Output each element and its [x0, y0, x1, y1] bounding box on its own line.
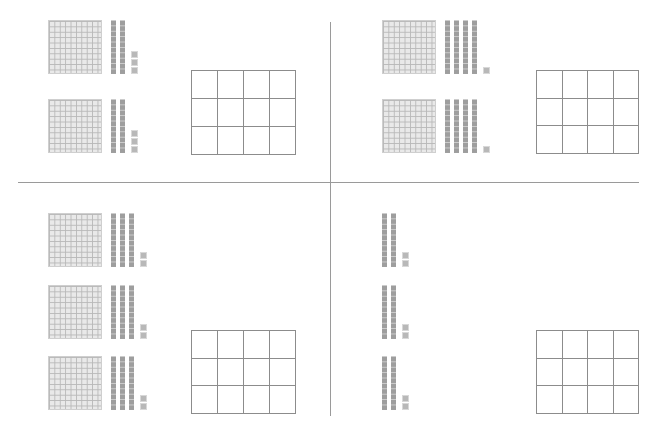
ten-rod-block	[111, 213, 116, 267]
one-unit-block	[131, 67, 138, 74]
base-ten-group	[382, 20, 490, 74]
answer-cell[interactable]	[614, 359, 640, 387]
answer-cell[interactable]	[192, 331, 218, 359]
base-ten-group	[382, 285, 409, 339]
answer-cell[interactable]	[244, 99, 270, 127]
one-unit-block	[140, 403, 147, 410]
tens-rods	[445, 20, 481, 74]
answer-cell[interactable]	[218, 71, 244, 99]
answer-cell[interactable]	[563, 99, 589, 127]
answer-cell[interactable]	[537, 359, 563, 387]
answer-cell[interactable]	[563, 331, 589, 359]
ten-rod-block	[129, 285, 134, 339]
answer-grid	[191, 330, 296, 414]
horizontal-divider	[18, 182, 639, 183]
ten-rod-block	[382, 213, 387, 267]
ones-units	[131, 129, 138, 153]
ten-rod-block	[472, 99, 477, 153]
answer-cell[interactable]	[218, 359, 244, 387]
answer-cell[interactable]	[244, 127, 270, 155]
base-ten-group	[382, 99, 490, 153]
answer-cell[interactable]	[218, 331, 244, 359]
answer-cell[interactable]	[537, 99, 563, 127]
answer-cell[interactable]	[588, 331, 614, 359]
answer-cell[interactable]	[588, 359, 614, 387]
answer-cell[interactable]	[537, 331, 563, 359]
answer-cell[interactable]	[537, 71, 563, 99]
ten-rod-block	[391, 285, 396, 339]
one-unit-block	[402, 324, 409, 331]
answer-cell[interactable]	[270, 331, 296, 359]
answer-cell[interactable]	[614, 71, 640, 99]
answer-cell[interactable]	[270, 71, 296, 99]
answer-cell[interactable]	[218, 127, 244, 155]
one-unit-block	[140, 260, 147, 267]
one-unit-block	[402, 332, 409, 339]
answer-cell[interactable]	[270, 127, 296, 155]
tens-rods	[111, 356, 138, 410]
ten-rod-block	[445, 99, 450, 153]
answer-cell[interactable]	[588, 71, 614, 99]
one-unit-block	[402, 395, 409, 402]
base-ten-group	[48, 20, 138, 74]
answer-cell[interactable]	[563, 359, 589, 387]
answer-cell[interactable]	[192, 359, 218, 387]
tens-rods	[382, 213, 400, 267]
answer-cell[interactable]	[614, 99, 640, 127]
one-unit-block	[131, 138, 138, 145]
one-unit-block	[402, 252, 409, 259]
ten-rod-block	[463, 20, 468, 74]
answer-grid	[536, 70, 639, 154]
hundred-flat-block	[382, 99, 436, 153]
tens-rods	[382, 356, 400, 410]
base-ten-group	[48, 213, 147, 267]
base-ten-group	[48, 285, 147, 339]
tens-rods	[382, 285, 400, 339]
answer-cell[interactable]	[244, 359, 270, 387]
answer-cell[interactable]	[218, 99, 244, 127]
ten-rod-block	[120, 213, 125, 267]
answer-cell[interactable]	[244, 71, 270, 99]
answer-cell[interactable]	[244, 331, 270, 359]
ten-rod-block	[472, 20, 477, 74]
ones-units	[483, 66, 490, 74]
ones-units	[140, 251, 147, 267]
answer-cell[interactable]	[218, 386, 244, 414]
hundred-flat-block	[48, 20, 102, 74]
answer-cell[interactable]	[563, 126, 589, 154]
ten-rod-block	[111, 356, 116, 410]
answer-cell[interactable]	[192, 127, 218, 155]
ten-rod-block	[111, 99, 116, 153]
answer-cell[interactable]	[192, 386, 218, 414]
ten-rod-block	[454, 20, 459, 74]
tens-rods	[445, 99, 481, 153]
answer-cell[interactable]	[588, 386, 614, 414]
tens-rods	[111, 213, 138, 267]
answer-cell[interactable]	[537, 386, 563, 414]
answer-cell[interactable]	[270, 99, 296, 127]
ones-units	[140, 323, 147, 339]
answer-cell[interactable]	[563, 71, 589, 99]
answer-cell[interactable]	[588, 99, 614, 127]
ones-units	[402, 251, 409, 267]
one-unit-block	[140, 324, 147, 331]
ten-rod-block	[120, 99, 125, 153]
ones-units	[483, 145, 490, 153]
answer-cell[interactable]	[270, 386, 296, 414]
answer-cell[interactable]	[563, 386, 589, 414]
one-unit-block	[402, 260, 409, 267]
answer-cell[interactable]	[537, 126, 563, 154]
answer-cell[interactable]	[588, 126, 614, 154]
answer-cell[interactable]	[614, 331, 640, 359]
one-unit-block	[131, 59, 138, 66]
ten-rod-block	[129, 356, 134, 410]
answer-cell[interactable]	[614, 126, 640, 154]
base-ten-group	[48, 356, 147, 410]
answer-cell[interactable]	[270, 359, 296, 387]
ten-rod-block	[120, 20, 125, 74]
answer-cell[interactable]	[192, 99, 218, 127]
answer-cell[interactable]	[192, 71, 218, 99]
ten-rod-block	[454, 99, 459, 153]
answer-cell[interactable]	[614, 386, 640, 414]
answer-cell[interactable]	[244, 386, 270, 414]
